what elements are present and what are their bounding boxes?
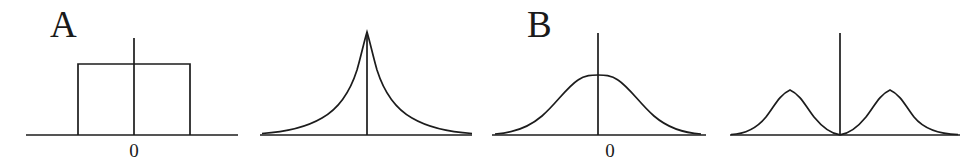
panel-b-plot [243, 0, 486, 167]
panel-d-bimodal-curve [731, 90, 958, 135]
distribution-shapes-figure: A 0 B 0 C 0 D 0 [0, 0, 970, 167]
panel-a-uniform: A 0 [0, 0, 243, 167]
panel-d-plot [729, 0, 970, 167]
panel-a-label: A [50, 6, 77, 43]
panel-d-bimodal: D 0 [729, 0, 970, 167]
panel-a-origin-label: 0 [119, 141, 149, 160]
panel-c-gaussian: C 0 [486, 0, 729, 167]
panel-b-peaked: B 0 [243, 0, 486, 167]
panel-c-plot [486, 0, 729, 167]
